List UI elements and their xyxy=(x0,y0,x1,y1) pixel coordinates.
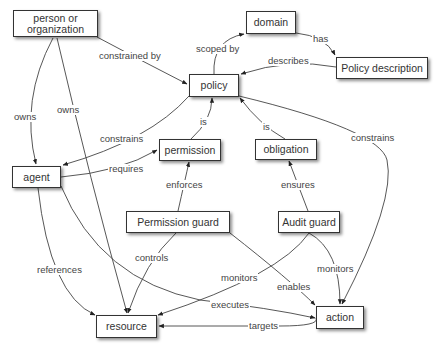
node-obligation: obligation xyxy=(255,139,317,160)
node-label: person or organization xyxy=(26,13,86,35)
node-permission: permission xyxy=(159,139,221,161)
node-label: Policy description xyxy=(341,63,423,74)
node-label: policy xyxy=(201,80,228,91)
label-permission-is: is xyxy=(199,117,208,127)
node-domain: domain xyxy=(246,11,296,34)
edge-owns-agent xyxy=(31,38,53,164)
label-references: references xyxy=(36,265,83,275)
label-executes: executes xyxy=(210,300,250,310)
label-controls: controls xyxy=(134,253,169,263)
label-constrains-agent: constrains xyxy=(99,134,144,144)
node-label: Permission guard xyxy=(137,217,219,228)
edge-targets xyxy=(159,318,316,326)
node-person-or-organization: person or organization xyxy=(13,10,98,37)
node-label: Audit guard xyxy=(282,217,336,228)
label-constrains-action: constrains xyxy=(350,133,395,143)
node-label: permission xyxy=(165,145,216,156)
node-label: action xyxy=(326,312,354,323)
label-ensures: ensures xyxy=(280,180,316,190)
label-scoped-by: scoped by xyxy=(195,44,240,54)
node-agent: agent xyxy=(12,166,61,188)
label-enforces: enforces xyxy=(165,180,203,190)
label-requires: requires xyxy=(108,164,144,174)
label-owns-resource: owns xyxy=(56,105,80,115)
node-audit-guard: Audit guard xyxy=(278,211,340,233)
node-action: action xyxy=(316,306,364,329)
label-targets: targets xyxy=(248,321,279,331)
node-label: obligation xyxy=(264,144,309,155)
node-policy-description: Policy description xyxy=(336,57,428,79)
label-monitors-action: monitors xyxy=(316,264,354,274)
node-label: agent xyxy=(23,172,49,183)
node-resource: resource xyxy=(96,315,157,338)
edge-obligation-is xyxy=(240,98,285,139)
node-policy: policy xyxy=(189,74,239,97)
label-enables: enables xyxy=(276,282,311,292)
edge-executes xyxy=(61,186,315,318)
label-describes: describes xyxy=(267,56,310,66)
label-obligation-is: is xyxy=(262,122,271,132)
edge-enables xyxy=(230,233,315,305)
node-label: domain xyxy=(254,17,288,28)
label-has: has xyxy=(312,34,329,44)
node-permission-guard: Permission guard xyxy=(126,211,230,233)
edge-scoped-by xyxy=(214,34,244,74)
node-label: resource xyxy=(106,321,147,332)
label-monitors-resource: monitors xyxy=(220,273,258,283)
label-owns-agent: owns xyxy=(13,112,37,122)
label-constrained-by: constrained by xyxy=(98,51,162,61)
edge-controls xyxy=(128,233,176,313)
edge-references xyxy=(38,188,95,315)
